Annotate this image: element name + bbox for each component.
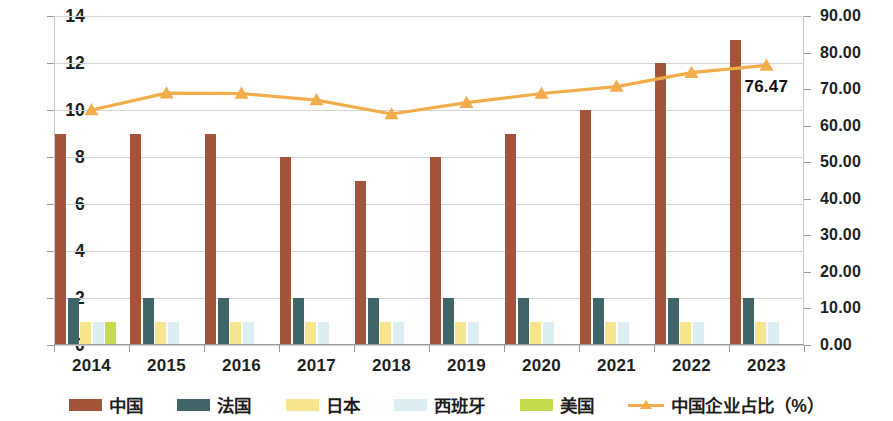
y-axis-right-tick-label: 60.00	[820, 117, 892, 135]
y-axis-left-tick-mark	[47, 251, 54, 252]
x-axis-tick-mark	[504, 345, 505, 352]
legend-label: 中国企业占比（%）	[671, 392, 824, 417]
y-axis-right-tick-mark	[804, 199, 811, 200]
x-axis-tick-label: 2020	[522, 356, 561, 376]
y-axis-left-tick-mark	[47, 204, 54, 205]
x-axis-tick-label: 2015	[147, 356, 186, 376]
x-axis-tick-label: 2018	[372, 356, 411, 376]
chart-legend: 中国法国日本西班牙美国中国企业占比（%）	[0, 388, 893, 421]
legend-swatch	[69, 399, 102, 411]
y-axis-right-tick-label: 40.00	[820, 190, 892, 208]
x-axis-tick-mark	[429, 345, 430, 352]
y-axis-left-tick-mark	[47, 63, 54, 64]
legend-item[interactable]: 日本	[286, 392, 360, 417]
y-axis-right-tick-mark	[804, 308, 811, 309]
y-axis-right-tick-mark	[804, 272, 811, 273]
legend-label: 日本	[326, 392, 360, 417]
y-axis-right-tick-label: 0.00	[820, 336, 892, 354]
y-axis-right-tick-label: 10.00	[820, 299, 892, 317]
y-axis-left-tick-mark	[47, 16, 54, 17]
legend-item[interactable]: 中国企业占比（%）	[628, 392, 824, 417]
x-axis-tick-mark	[279, 345, 280, 352]
x-axis-tick-label: 2022	[672, 356, 711, 376]
x-axis-tick-label: 2023	[747, 356, 786, 376]
y-axis-right-tick-mark	[804, 89, 811, 90]
y-axis-left-tick-mark	[47, 345, 54, 346]
y-axis-right-tick-label: 20.00	[820, 263, 892, 281]
legend-item[interactable]: 西班牙	[394, 392, 486, 417]
y-axis-right-tick-label: 50.00	[820, 153, 892, 171]
x-axis-tick-label: 2019	[447, 356, 486, 376]
x-axis-tick-mark	[204, 345, 205, 352]
legend-label: 法国	[217, 392, 251, 417]
x-axis-tick-label: 2017	[297, 356, 336, 376]
x-axis-tick-mark	[579, 345, 580, 352]
y-axis-right-tick-mark	[804, 16, 811, 17]
data-label: 76.47	[745, 77, 789, 97]
y-axis-right-tick-label: 80.00	[820, 44, 892, 62]
chart-container: 02468101214 0.0010.0020.0030.0040.0050.0…	[0, 0, 893, 421]
x-axis-tick-mark	[804, 345, 805, 352]
line-series-layer	[54, 16, 804, 345]
x-axis-tick-mark	[354, 345, 355, 352]
x-axis-tick-label: 2021	[597, 356, 636, 376]
x-axis-tick-mark	[129, 345, 130, 352]
legend-line-marker-icon	[628, 399, 664, 411]
x-axis-tick-label: 2014	[72, 356, 111, 376]
y-axis-left-tick-mark	[47, 157, 54, 158]
y-axis-right-tick-mark	[804, 53, 811, 54]
x-axis-tick-mark	[654, 345, 655, 352]
legend-item[interactable]: 中国	[69, 392, 143, 417]
y-axis-right-tick-mark	[804, 345, 811, 346]
y-axis-right-tick-mark	[804, 235, 811, 236]
legend-item[interactable]: 美国	[520, 392, 594, 417]
y-axis-right-tick-label: 70.00	[820, 80, 892, 98]
legend-swatch	[520, 399, 553, 411]
legend-swatch	[394, 399, 427, 411]
y-axis-right-tick-mark	[804, 162, 811, 163]
legend-label: 美国	[560, 392, 594, 417]
y-axis-right-tick-label: 30.00	[820, 226, 892, 244]
legend-item[interactable]: 法国	[177, 392, 251, 417]
y-axis-left-tick-mark	[47, 298, 54, 299]
y-axis-right-tick-label: 90.00	[820, 7, 892, 25]
x-axis-tick-mark	[729, 345, 730, 352]
y-axis-left-tick-mark	[47, 110, 54, 111]
legend-swatch	[286, 399, 319, 411]
y-axis-right-tick-mark	[804, 126, 811, 127]
legend-label: 中国	[109, 392, 143, 417]
plot-area: 76.47	[54, 16, 804, 345]
line-path	[92, 65, 767, 114]
legend-swatch	[177, 399, 210, 411]
x-axis-tick-mark	[54, 345, 55, 352]
x-axis-tick-label: 2016	[222, 356, 261, 376]
legend-label: 西班牙	[434, 392, 486, 417]
